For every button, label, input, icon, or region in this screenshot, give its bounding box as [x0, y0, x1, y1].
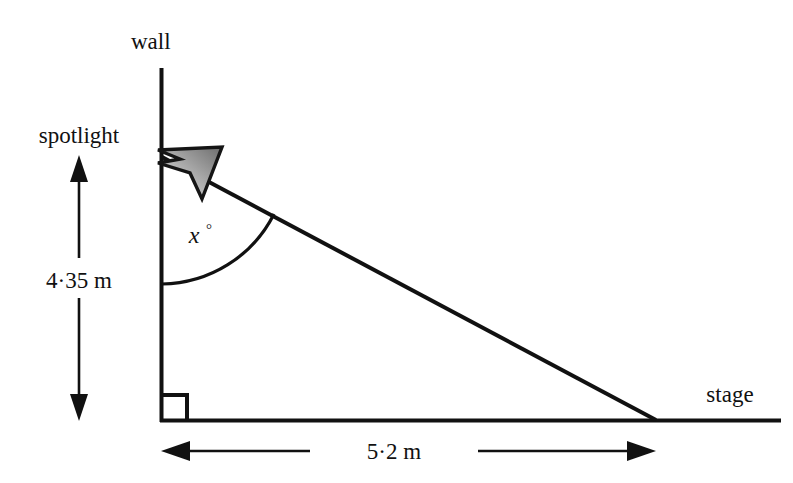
diagram-canvas: wall spotlight 4·35 m 5·2 m stage x °	[0, 0, 793, 483]
spotlight-label: spotlight	[39, 123, 120, 148]
wall-height-label: 4·35 m	[46, 268, 112, 293]
angle-degree-symbol: °	[206, 221, 212, 237]
geometry-diagram: wall spotlight 4·35 m 5·2 m stage x °	[0, 0, 793, 483]
angle-variable-label: x	[188, 222, 200, 248]
wall-label: wall	[131, 29, 171, 54]
stage-label: stage	[706, 382, 753, 407]
stage-length-label: 5·2 m	[367, 439, 421, 464]
diagram-background	[0, 0, 793, 483]
